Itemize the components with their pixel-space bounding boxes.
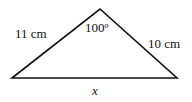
apex-angle-label: 100º [85,20,109,35]
right-side-label: 10 cm [148,36,180,51]
base-label: x [91,83,98,98]
triangle-diagram: 11 cm 100º 10 cm x [0,0,192,102]
left-side-label: 11 cm [15,26,47,41]
